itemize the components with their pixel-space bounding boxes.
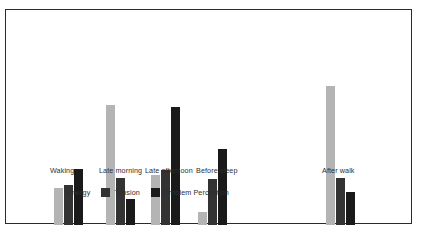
bar-after-walk-tension[interactable] xyxy=(336,178,345,225)
bar-late-morning-tension[interactable] xyxy=(116,178,125,225)
chart-frame-border: Waking Late morning Late afternoon Befor… xyxy=(5,9,412,224)
category-label-before-sleep: Before sleep xyxy=(196,167,238,174)
legend-label-tension: Tension xyxy=(114,189,139,196)
bar-after-walk-problem-perception[interactable] xyxy=(346,192,355,225)
category-label-late-morning: Late morning xyxy=(99,167,142,174)
legend-item-problem-perception[interactable]: Problem Perception xyxy=(151,188,229,197)
legend-label-energy: Energy xyxy=(67,189,90,196)
bar-before-sleep-energy[interactable] xyxy=(198,212,207,225)
energy-swatch-icon xyxy=(54,188,63,197)
bar-group-before-sleep xyxy=(198,73,228,225)
tension-swatch-icon xyxy=(101,188,110,197)
legend-item-tension[interactable]: Tension xyxy=(101,188,139,197)
legend-item-energy[interactable]: Energy xyxy=(54,188,90,197)
legend-label-problem-perception: Problem Perception xyxy=(164,189,229,196)
chart-page: Waking Late morning Late afternoon Befor… xyxy=(0,0,421,243)
bar-group-late-morning xyxy=(106,73,136,225)
bar-late-afternoon-tension[interactable] xyxy=(161,170,170,225)
bar-after-walk-energy[interactable] xyxy=(326,86,335,225)
chart-legend: Energy Tension Problem Perception xyxy=(54,188,229,197)
bar-before-sleep-problem-perception[interactable] xyxy=(218,149,227,225)
category-label-after-walk: After walk xyxy=(322,167,355,174)
bar-late-afternoon-energy[interactable] xyxy=(151,175,160,225)
bar-group-waking xyxy=(54,73,84,225)
bar-late-morning-problem-perception[interactable] xyxy=(126,199,135,225)
bar-waking-energy[interactable] xyxy=(54,192,63,225)
bar-late-morning-energy[interactable] xyxy=(106,105,115,225)
category-label-waking: Waking xyxy=(50,167,74,174)
problem-perception-swatch-icon xyxy=(151,188,160,197)
category-label-late-afternoon: Late afternoon xyxy=(145,167,193,174)
bar-group-late-afternoon xyxy=(151,73,181,225)
bar-group-after-walk xyxy=(326,73,356,225)
bar-before-sleep-tension[interactable] xyxy=(208,179,217,225)
plot-area: Waking Late morning Late afternoon Befor… xyxy=(6,10,413,225)
